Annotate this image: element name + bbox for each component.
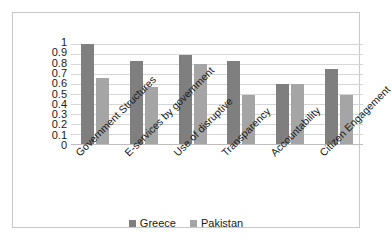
bar-group: [81, 44, 109, 144]
gridline: [71, 44, 363, 45]
bar-pakistan: [340, 95, 353, 144]
legend-item-greece[interactable]: Greece: [129, 218, 176, 229]
legend-swatch-icon: [190, 220, 197, 227]
gridline: [71, 124, 363, 125]
bar-greece: [325, 69, 338, 144]
legend-label: Greece: [140, 218, 176, 229]
gridline: [71, 54, 363, 55]
bar-group: [179, 44, 207, 144]
bar-pakistan: [194, 64, 207, 144]
chart-legend: GreecePakistan: [13, 218, 359, 229]
y-axis: 10.90.80.70.60.50.40.30.20.10: [33, 37, 67, 151]
bar-greece: [227, 61, 240, 144]
axis-baseline: [71, 144, 363, 145]
gridline: [71, 104, 363, 105]
gridline: [71, 134, 363, 135]
plot-area: [71, 44, 363, 144]
bar-group: [130, 44, 158, 144]
bar-group: [325, 44, 353, 144]
gridline: [71, 114, 363, 115]
bar-pakistan: [96, 78, 109, 144]
bar-greece: [179, 55, 192, 144]
bar-greece: [130, 61, 143, 144]
gridline: [71, 74, 363, 75]
bar-pakistan: [291, 84, 304, 144]
bar-pakistan: [145, 87, 158, 144]
gridline: [71, 94, 363, 95]
bar-group: [276, 44, 304, 144]
legend-swatch-icon: [129, 220, 136, 227]
gridline: [71, 84, 363, 85]
bar-greece: [81, 44, 94, 144]
gridline: [71, 64, 363, 65]
bar-pakistan: [242, 95, 255, 144]
y-axis-tick-label: 0: [61, 140, 67, 151]
bar-group: [227, 44, 255, 144]
bar-greece: [276, 84, 289, 144]
legend-label: Pakistan: [201, 218, 243, 229]
legend-item-pakistan[interactable]: Pakistan: [190, 218, 243, 229]
chart-frame: 10.90.80.70.60.50.40.30.20.10 Government…: [12, 12, 360, 228]
